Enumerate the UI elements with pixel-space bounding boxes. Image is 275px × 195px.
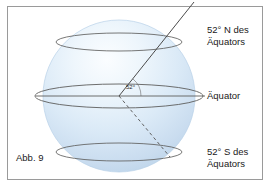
angle-label: 52° [126, 84, 135, 91]
label-equator: Äquator [207, 90, 240, 102]
label-north-latitude: 52° N des Äquators [207, 24, 249, 47]
label-south-latitude: 52° S des Äquators [207, 146, 248, 169]
figure-caption: Abb. 9 [16, 152, 43, 164]
figure-container: 52° N des Äquators Äquator 52° S des Äqu… [0, 0, 275, 195]
